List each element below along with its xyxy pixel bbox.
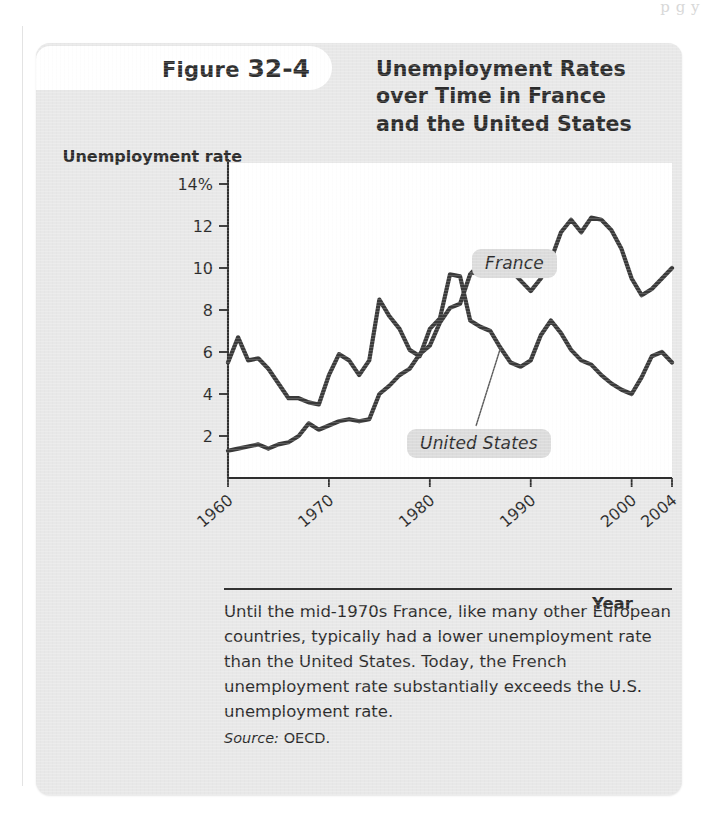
caption-divider xyxy=(224,588,672,590)
source-value: OECD. xyxy=(284,730,330,746)
y-axis-ticks: 2468101214% xyxy=(177,175,228,446)
y-tick-label: 4 xyxy=(203,385,213,404)
figure-caption: Until the mid-1970s France, like many ot… xyxy=(224,599,676,749)
series-label-united-states: United States xyxy=(407,429,551,458)
y-tick-label: 8 xyxy=(203,301,213,320)
y-tick-label: 2 xyxy=(203,427,213,446)
figure-panel: Figure 32-4 Unemployment Rates over Time… xyxy=(36,43,682,795)
x-tick-label: 2000 xyxy=(597,491,640,532)
x-tick-label: 2004 xyxy=(637,491,680,532)
y-tick-label: 6 xyxy=(203,343,213,362)
source-label: Source: xyxy=(224,730,279,746)
x-tick-label: 1960 xyxy=(193,491,236,532)
series-label-france: France xyxy=(472,249,557,278)
scan-margin-line xyxy=(22,26,23,786)
x-tick-label: 1980 xyxy=(395,491,438,532)
x-tick-label: 1970 xyxy=(294,491,337,532)
y-tick-label: 12 xyxy=(193,217,213,236)
x-tick-label: 1990 xyxy=(496,491,539,532)
figure-source: Source: OECD. xyxy=(224,727,676,749)
caption-text: Until the mid-1970s France, like many ot… xyxy=(224,602,671,721)
x-axis-ticks: 196019701980199020002004 xyxy=(193,478,680,531)
y-tick-label: 10 xyxy=(193,259,213,278)
page-bleed-text: p g y xyxy=(660,0,700,16)
y-tick-label: 14% xyxy=(177,175,213,194)
